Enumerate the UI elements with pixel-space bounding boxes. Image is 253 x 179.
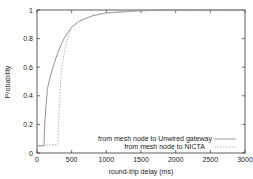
x-tick-label: 0 [35,156,39,163]
x-tick-label: 3000 [237,156,253,163]
series-line [37,10,245,146]
cdf-chart: 05001000150020002500300000.20.40.60.81 P… [0,0,253,179]
legend: from mesh node to Unwired gateway from m… [98,135,236,150]
y-axis-label: Probability [4,65,12,98]
y-tick-label: 0 [29,150,33,157]
legend-label-nicta: from mesh node to NICTA [124,143,205,150]
y-tick-label: 1 [29,7,33,14]
series-line [37,10,245,146]
y-tick-label: 0.8 [23,35,33,42]
x-tick-label: 2000 [168,156,184,163]
y-tick-label: 0.6 [23,64,33,71]
x-tick-label: 1500 [133,156,149,163]
x-tick-label: 500 [66,156,78,163]
y-tick-label: 0.2 [23,121,33,128]
x-tick-label: 2500 [203,156,219,163]
x-tick-label: 1000 [99,156,115,163]
plot-lines [37,10,245,146]
legend-label-unwired: from mesh node to Unwired gateway [98,135,212,143]
y-tick-label: 0.4 [23,92,33,99]
x-axis-label: round-trip delay (ms) [109,168,174,176]
